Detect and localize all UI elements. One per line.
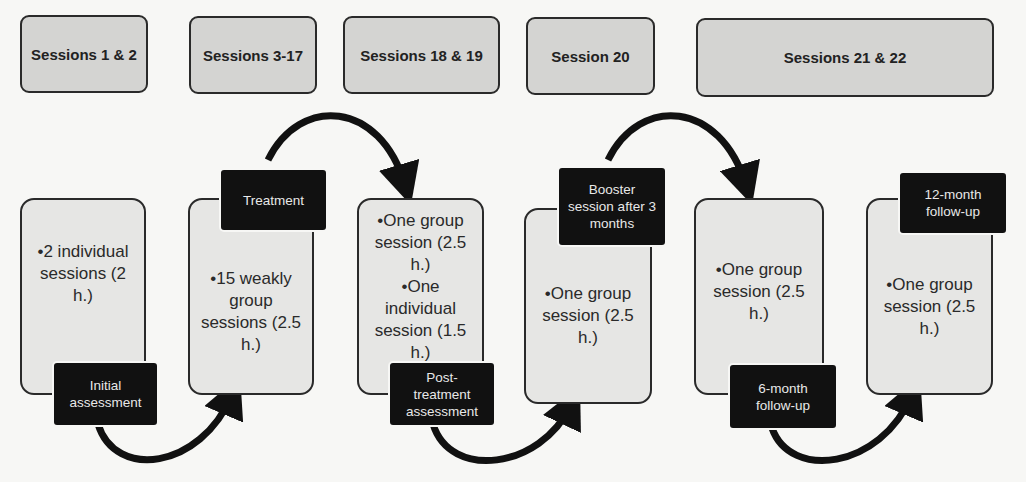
tag-12-month-follow-up: 12-month follow-up [898, 171, 1008, 235]
tag-booster-session: Booster session after 3 months [557, 166, 667, 247]
tag-initial-assessment: Initial assessment [52, 361, 159, 427]
stage-content: •15 weakly group sessions (2.5 h.) [196, 268, 306, 356]
stage-content: •One group session (2.5 h.) [702, 259, 816, 325]
tag-label: Post-treatment assessment [400, 369, 484, 420]
tag-label: Initial assessment [58, 377, 153, 411]
stage-content: •One group session (2.5 h.) [874, 274, 985, 340]
stage-content: •One individual session (1.5 h.) [365, 276, 476, 364]
tag-label: 6-month follow-up [743, 380, 823, 414]
tag-treatment: Treatment [219, 168, 328, 232]
stage-content: •One group session (2.5 h.) [532, 283, 644, 349]
stage-content: •2 individual sessions (2 h.) [28, 241, 138, 307]
tag-post-treatment-assessment: Post-treatment assessment [388, 361, 496, 427]
tag-label: Booster session after 3 months [565, 181, 659, 232]
stage-content: •One group session (2.5 h.) [365, 210, 476, 276]
tag-label: 12-month follow-up [913, 186, 993, 220]
tag-label: Treatment [243, 192, 304, 209]
tag-6-month-follow-up: 6-month follow-up [728, 363, 838, 430]
